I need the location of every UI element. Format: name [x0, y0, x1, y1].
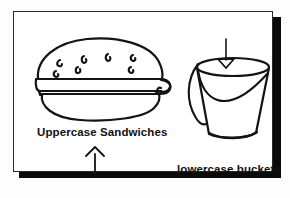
figure-canvas: Uppercase Sandwiches lowercase buckets [0, 0, 290, 198]
hamburger-illustration [32, 32, 182, 128]
arrow-up [82, 144, 108, 180]
bottom-bun [42, 94, 160, 121]
arrow-up-svg [82, 144, 108, 176]
label-uppercase-sandwiches: Uppercase Sandwiches [37, 126, 167, 138]
framed-panel: Uppercase Sandwiches lowercase buckets [13, 11, 273, 172]
arrow-down [213, 38, 239, 74]
bucket-body [197, 68, 269, 138]
cheese-slice [36, 79, 170, 92]
arrow-down-svg [213, 38, 239, 70]
label-lowercase-buckets: lowercase buckets [177, 163, 281, 175]
hamburger-svg [32, 32, 182, 124]
top-bun [38, 38, 163, 79]
